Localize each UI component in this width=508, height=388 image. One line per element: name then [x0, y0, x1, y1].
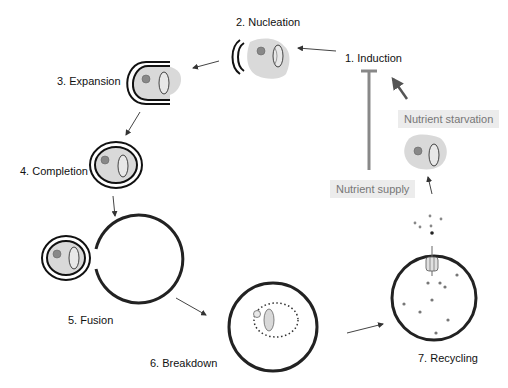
supply-inhibition-line [361, 71, 377, 170]
completion-autophagosome [90, 142, 142, 188]
step-induction-label: 1. Induction [345, 52, 402, 64]
recycling-lysosome [392, 215, 476, 340]
autophagy-diagram [0, 0, 508, 388]
breakdown-lysosome [229, 283, 317, 371]
step-breakdown-label: 6. Breakdown [150, 357, 217, 369]
starved-cell [404, 135, 447, 170]
expansion-cell [127, 62, 181, 104]
nutrient-starvation-box: Nutrient starvation [398, 110, 499, 128]
step-expansion-label: 3. Expansion [57, 75, 121, 87]
step-recycling-label: 7. Recycling [418, 352, 478, 364]
step-completion-label: 4. Completion [20, 165, 88, 177]
starvation-arrow [393, 79, 407, 99]
step-nucleation-label: 2. Nucleation [236, 16, 300, 28]
fusion-autolysosome [42, 215, 183, 303]
step-fusion-label: 5. Fusion [68, 314, 113, 326]
nucleation-cell [233, 39, 290, 79]
nutrient-supply-box: Nutrient supply [330, 180, 415, 198]
